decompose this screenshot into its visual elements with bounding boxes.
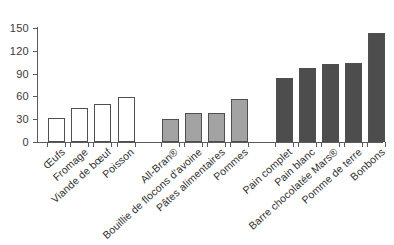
x-axis-tick <box>70 142 71 147</box>
y-axis-tick <box>33 119 38 120</box>
bar <box>231 99 248 142</box>
y-axis-tick <box>33 28 38 29</box>
x-axis-tick <box>230 142 231 147</box>
y-axis-tick-label: 90 <box>0 68 29 80</box>
bar <box>299 68 316 142</box>
y-axis-tick-label: 0 <box>0 136 29 148</box>
x-axis-tick <box>111 142 112 147</box>
bar <box>185 113 202 142</box>
x-axis-tick <box>135 142 136 147</box>
bar <box>322 64 339 142</box>
x-axis-tick <box>179 142 180 147</box>
x-axis-tick <box>321 142 322 147</box>
x-axis-tick <box>367 142 368 147</box>
x-axis-tick <box>184 142 185 147</box>
x-axis-tick <box>47 142 48 147</box>
x-axis-tick <box>293 142 294 147</box>
y-axis-tick <box>33 51 38 52</box>
x-axis-tick <box>117 142 118 147</box>
bar <box>94 104 111 142</box>
y-axis-tick-label: 150 <box>0 22 29 34</box>
bar-chart: 0306090120150 ŒufsFromageViande de bœufP… <box>0 0 394 245</box>
bar <box>345 63 362 142</box>
x-axis-tick <box>385 142 386 147</box>
plot-area <box>38 28 382 142</box>
y-axis-tick-label: 30 <box>0 113 29 125</box>
x-axis-tick <box>248 142 249 147</box>
bar <box>208 113 225 142</box>
y-axis-tick-label: 60 <box>0 90 29 102</box>
bar <box>48 118 65 142</box>
y-axis-tick <box>33 74 38 75</box>
y-axis-tick <box>33 96 38 97</box>
x-axis-tick <box>316 142 317 147</box>
bar <box>71 108 88 142</box>
x-axis-tick <box>65 142 66 147</box>
x-axis-tick <box>275 142 276 147</box>
x-axis-tick <box>344 142 345 147</box>
x-axis-tick <box>207 142 208 147</box>
x-axis-tick <box>88 142 89 147</box>
bar <box>368 33 385 142</box>
x-axis-tick <box>161 142 162 147</box>
bar <box>276 78 293 142</box>
x-axis-tick <box>225 142 226 147</box>
x-axis-tick <box>298 142 299 147</box>
bar <box>118 97 135 142</box>
bar <box>162 119 179 142</box>
x-axis-tick <box>362 142 363 147</box>
y-axis-tick <box>33 142 38 143</box>
x-axis-tick <box>339 142 340 147</box>
x-axis-tick <box>202 142 203 147</box>
x-axis-tick <box>93 142 94 147</box>
y-axis-tick-label: 120 <box>0 45 29 57</box>
